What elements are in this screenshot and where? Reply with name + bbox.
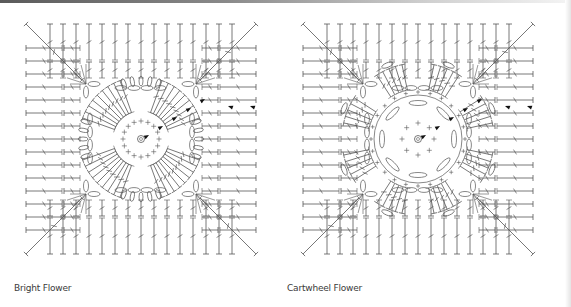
caption-cartwheel-flower: Cartwheel Flower: [287, 283, 362, 293]
chart-cartwheel-flower: [287, 8, 549, 278]
caption-bright-flower: Bright Flower: [14, 283, 71, 293]
page-edge: [565, 0, 571, 307]
chart-bright-flower: [10, 8, 272, 278]
top-shadow-strip: [0, 0, 571, 3]
